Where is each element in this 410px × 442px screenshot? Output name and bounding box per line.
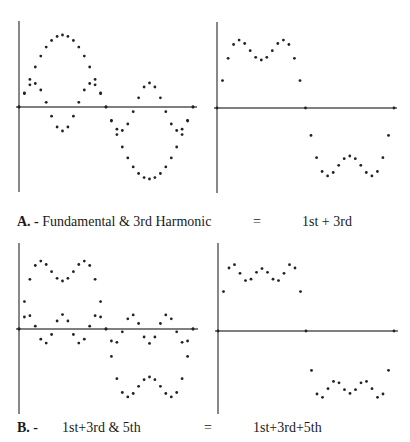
data-point	[371, 387, 374, 390]
plot-b-right-canvas	[0, 0, 410, 442]
caption-b-equals: =	[204, 421, 212, 435]
caption-b-left-text: 1st+3rd & 5th	[62, 421, 141, 435]
data-point	[316, 393, 319, 396]
data-point	[222, 290, 225, 293]
data-point	[387, 369, 390, 372]
data-point	[255, 271, 258, 274]
data-point	[360, 381, 363, 384]
caption-b-letter: B. -	[17, 420, 38, 435]
caption-b-right-text: 1st+3rd+5th	[253, 421, 322, 435]
data-point	[376, 396, 379, 399]
data-point	[393, 330, 396, 333]
data-point	[305, 330, 308, 333]
data-point	[239, 272, 242, 275]
data-point	[349, 392, 352, 395]
data-point	[277, 279, 280, 282]
data-point	[310, 369, 313, 372]
plot-b-sum-1st-3rd-5th	[0, 0, 410, 442]
caption-b: B. -	[17, 421, 38, 435]
data-point	[228, 267, 231, 270]
data-point	[299, 290, 302, 293]
data-point	[266, 271, 269, 274]
data-point	[261, 267, 264, 270]
data-point	[272, 278, 275, 281]
data-point	[250, 278, 253, 281]
data-point	[244, 279, 247, 282]
data-point	[217, 330, 220, 333]
data-point	[338, 381, 341, 384]
data-point	[343, 388, 346, 391]
data-point	[321, 396, 324, 399]
data-point	[332, 380, 335, 383]
data-point	[288, 263, 291, 266]
data-point	[233, 263, 236, 266]
data-point	[294, 267, 297, 270]
data-point	[365, 380, 368, 383]
data-point	[354, 388, 357, 391]
data-point	[283, 272, 286, 275]
data-point	[327, 387, 330, 390]
data-point	[382, 393, 385, 396]
